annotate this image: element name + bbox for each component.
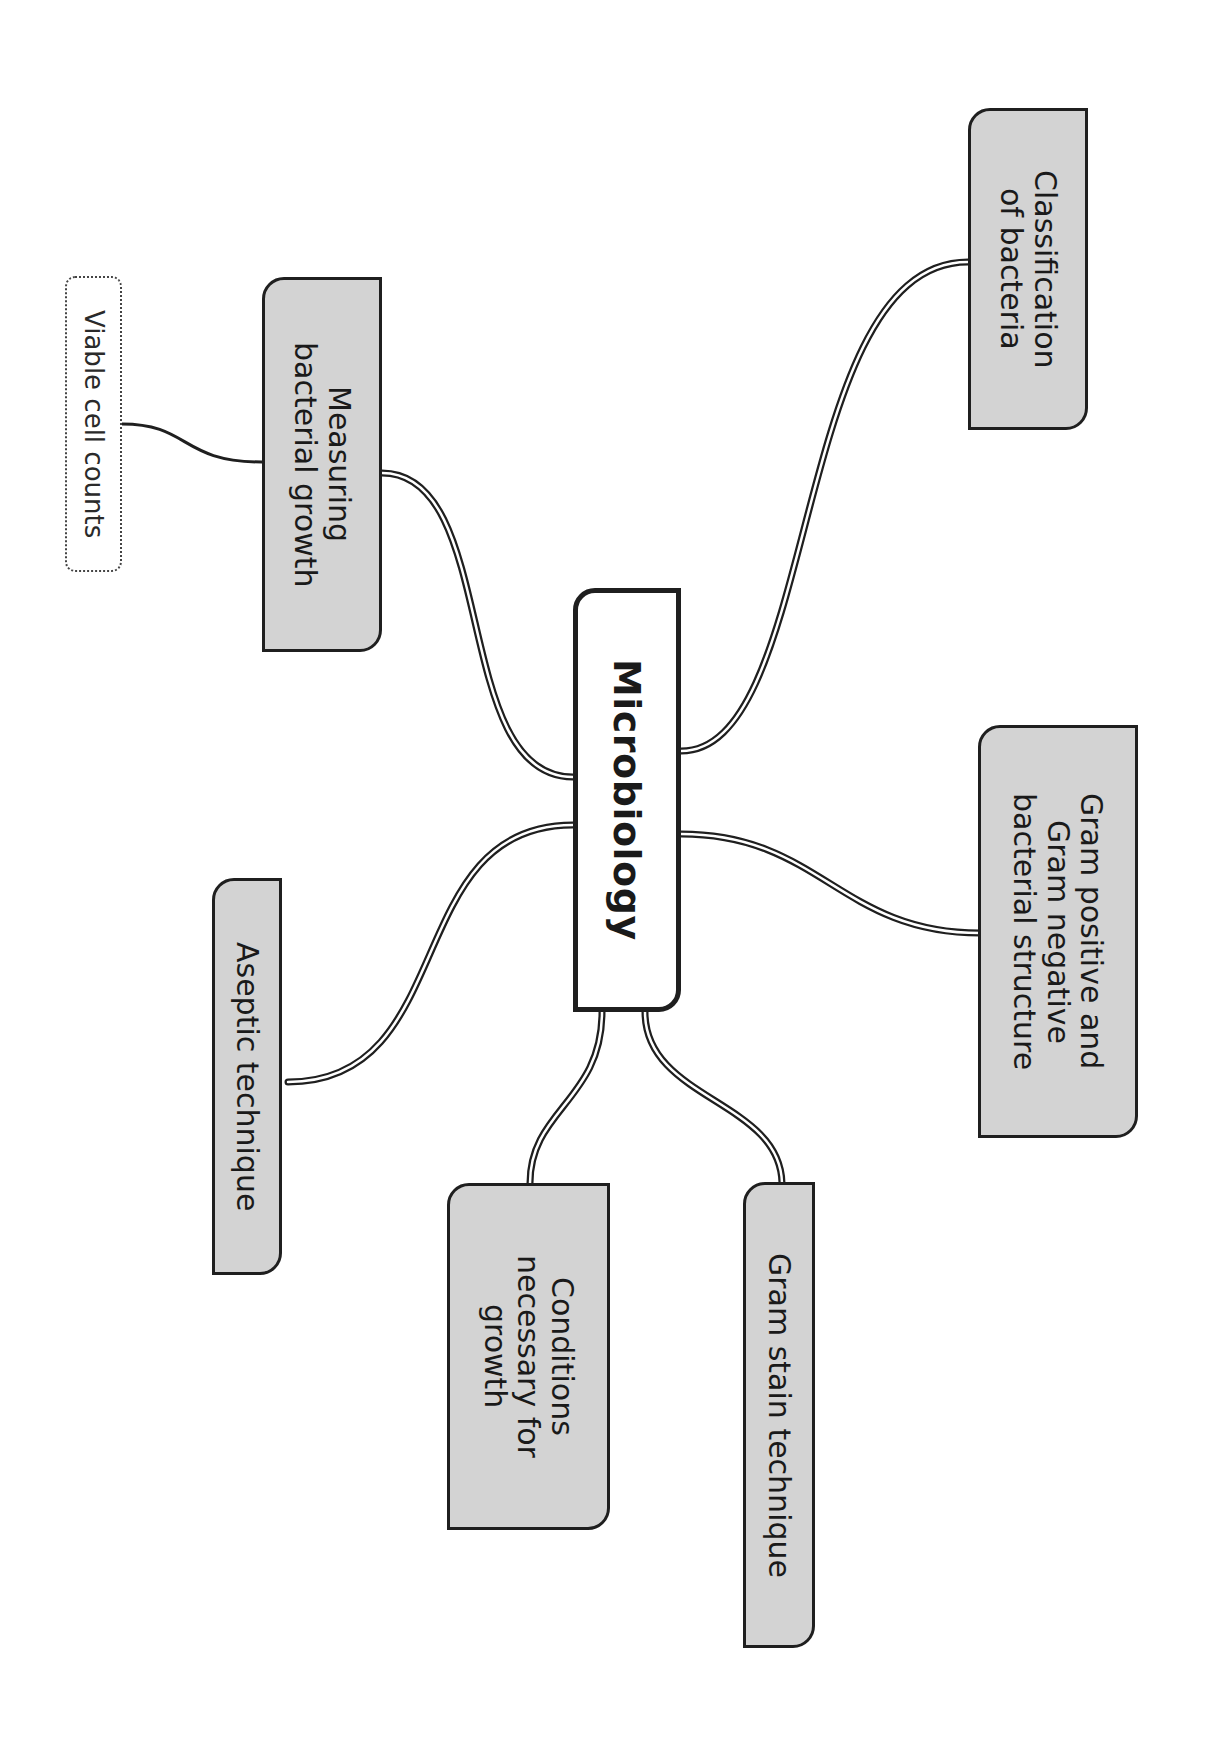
topic-node-gram-structure[interactable]: Gram positive and Gram negative bacteria…	[978, 725, 1138, 1138]
connector-measuring	[382, 473, 573, 777]
connector-conditions	[530, 1012, 602, 1183]
topic-node-gram-stain[interactable]: Gram stain technique	[743, 1182, 815, 1648]
connector-classification	[681, 262, 968, 751]
topic-label-gram-stain: Gram stain technique	[762, 1253, 796, 1578]
topic-node-aseptic[interactable]: Aseptic technique	[212, 878, 282, 1275]
topic-label-conditions: Conditions necessary for growth	[478, 1255, 579, 1458]
connector-gram-structure	[681, 834, 980, 933]
topic-node-measuring[interactable]: Measuring bacterial growth	[262, 277, 382, 652]
topic-node-conditions[interactable]: Conditions necessary for growth	[447, 1183, 610, 1530]
connector-gram-stain	[645, 1012, 782, 1183]
topic-label-measuring: Measuring bacterial growth	[288, 342, 355, 587]
central-node-microbiology[interactable]: Microbiology	[573, 588, 681, 1012]
subtopic-label-viable-cell-counts: Viable cell counts	[79, 310, 108, 538]
topic-label-classification: Classification of bacteria	[994, 170, 1061, 369]
connector-viable-cell-counts	[122, 424, 262, 462]
topic-label-aseptic: Aseptic technique	[230, 942, 264, 1211]
topic-label-gram-structure: Gram positive and Gram negative bacteria…	[1008, 793, 1109, 1070]
subtopic-node-viable-cell-counts[interactable]: Viable cell counts	[65, 276, 122, 572]
central-node-label: Microbiology	[606, 659, 649, 941]
connector-aseptic	[288, 825, 573, 1082]
topic-node-classification[interactable]: Classification of bacteria	[968, 108, 1088, 430]
